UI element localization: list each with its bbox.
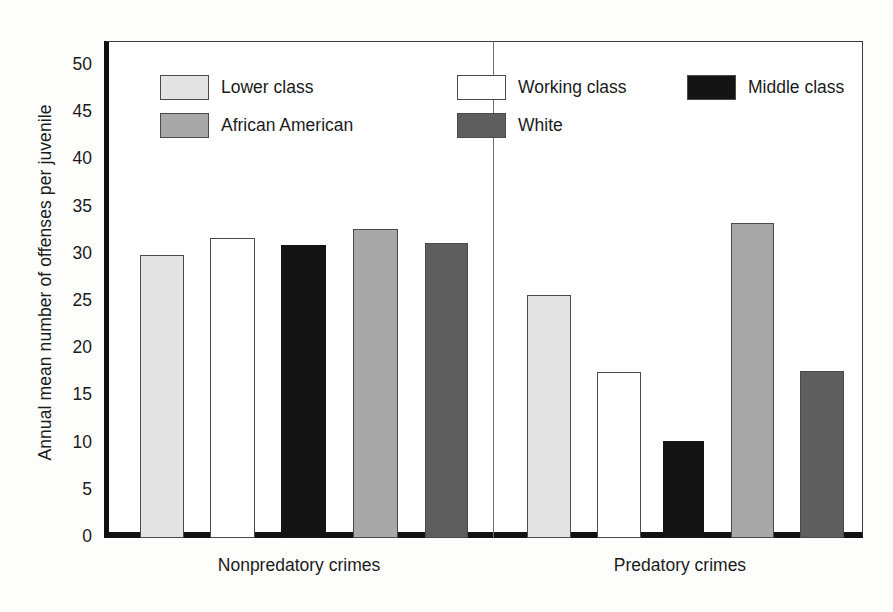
legend-label-middle-class: Middle class [748,77,844,98]
bar-predatory-crimes-working-class [597,372,641,538]
legend-label-working-class: Working class [518,77,627,98]
bar-chart-figure: Annual mean number of offenses per juven… [0,0,893,612]
bar-nonpredatory-crimes-working-class [210,238,255,538]
legend-label-lower-class: Lower class [221,77,313,98]
y-tick-label-20: 20 [46,339,92,357]
x-label-predatory-crimes: Predatory crimes [520,555,840,576]
y-tick-label-15: 15 [46,386,92,404]
legend-swatch-middle-class [687,75,736,100]
legend-swatch-working-class [457,75,506,100]
bar-nonpredatory-crimes-white [425,243,468,538]
legend-item-african-american: African American [160,110,353,140]
bar-predatory-crimes-african-american [731,223,774,538]
legend-item-lower-class: Lower class [160,72,313,102]
bar-nonpredatory-crimes-lower-class [140,255,184,538]
bar-predatory-crimes-lower-class [527,295,571,538]
bar-predatory-crimes-white [800,371,844,538]
legend-label-white: White [518,115,563,136]
legend-swatch-african-american [160,113,209,138]
bar-predatory-crimes-middle-class [663,441,704,538]
y-tick-label-45: 45 [46,103,92,121]
x-label-nonpredatory-crimes: Nonpredatory crimes [139,555,459,576]
legend-label-african-american: African American [221,115,353,136]
y-axis-title: Annual mean number of offenses per juven… [35,23,56,543]
legend-item-white: White [457,110,563,140]
y-tick-label-25: 25 [46,292,92,310]
legend-row-2: African American White [160,110,860,140]
bar-nonpredatory-crimes-middle-class [281,245,326,538]
y-tick-label-50: 50 [46,56,92,74]
y-tick-label-40: 40 [46,150,92,168]
y-tick-label-10: 10 [46,434,92,452]
legend-item-working-class: Working class [457,72,627,102]
legend-row-1: Lower class Working class Middle class [160,72,860,102]
legend-swatch-white [457,113,506,138]
y-tick-label-0: 0 [46,528,92,546]
y-tick-label-5: 5 [46,481,92,499]
legend-swatch-lower-class [160,75,209,100]
y-tick-label-30: 30 [46,245,92,263]
bar-nonpredatory-crimes-african-american [353,229,398,538]
y-tick-label-35: 35 [46,198,92,216]
legend-item-middle-class: Middle class [687,72,844,102]
